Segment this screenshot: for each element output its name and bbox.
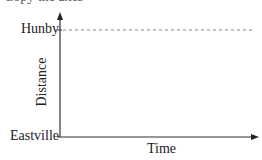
eastville-label: Eastville [10, 128, 59, 144]
y-axis-arrow-icon [57, 12, 63, 20]
hunby-label: Hunby [21, 21, 59, 37]
x-axis-label: Time [147, 141, 176, 157]
y-axis-label: Distance [34, 58, 50, 107]
x-axis-arrow-icon [251, 134, 259, 140]
